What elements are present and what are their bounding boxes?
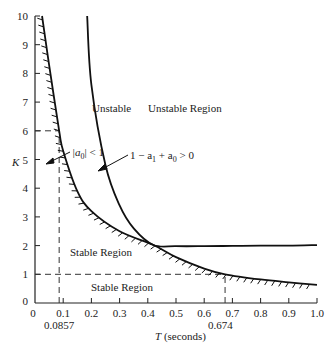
x-tick-label: 0.9 (282, 307, 296, 319)
y-tick-label: 8 (23, 67, 29, 79)
x-tick-label: 0.3 (113, 307, 127, 319)
y-tick-label: 6 (23, 125, 29, 137)
annotation-unstable-region: Unstable Region (148, 102, 222, 114)
y-tick-label: 3 (23, 211, 29, 223)
x-axis-label: T (seconds) (155, 330, 206, 343)
y-tick-label: 1 (23, 268, 29, 280)
x-extra-label-0.674: 0.674 (208, 319, 233, 331)
annotation-stability-condition: 1 − a1 + a0 > 0 (130, 149, 194, 164)
x-tick-label: 0.5 (169, 307, 183, 319)
y-tick-label: 2 (23, 240, 29, 252)
y-tick-label: 0 (23, 295, 29, 307)
x-tick-label: 0.6 (197, 307, 211, 319)
y-tick-label: 10 (17, 10, 29, 22)
annotation-stable-region-upper: Stable Region (70, 246, 133, 258)
x-tick-label: 0.4 (141, 307, 155, 319)
annotation-unstable: Unstable (92, 102, 131, 114)
x-tick-label: 0 (30, 307, 36, 319)
x-tick-label: 0.7 (226, 307, 240, 319)
x-tick-label: 1.0 (310, 307, 324, 319)
annotation-a0-condition: |a0| < 1 (72, 146, 104, 161)
annotation-stable-region-lower: Stable Region (91, 281, 154, 293)
x-extra-label-0.0857: 0.0857 (44, 319, 75, 331)
curve-stability-boundary (87, 16, 317, 247)
x-tick-label: 0.1 (56, 307, 70, 319)
y-tick-label: 5 (23, 154, 29, 166)
y-tick-label: 4 (23, 182, 29, 194)
x-tick-label: 0.2 (85, 307, 99, 319)
y-tick-label: 7 (23, 96, 29, 108)
stability-region-chart: 00.10.20.30.40.50.60.70.80.91.0012345678… (0, 0, 336, 352)
x-tick-label: 0.8 (254, 307, 268, 319)
axes: 00.10.20.30.40.50.60.70.80.91.0012345678… (17, 10, 324, 319)
y-axis-label: K (11, 156, 20, 168)
y-tick-label: 9 (23, 39, 29, 51)
